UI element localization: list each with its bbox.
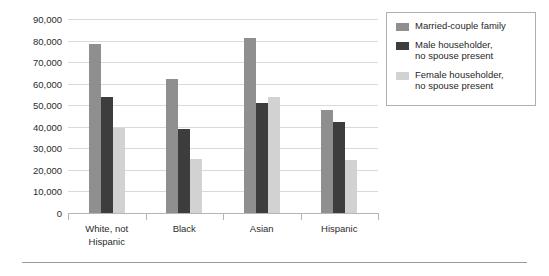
bar-group bbox=[146, 19, 224, 213]
y-axis-tick-label: 80,000 bbox=[0, 35, 62, 46]
y-axis-tick-label: 10,000 bbox=[0, 186, 62, 197]
x-axis-tick bbox=[301, 213, 302, 220]
bar bbox=[113, 128, 125, 213]
bar bbox=[178, 129, 190, 213]
legend-swatch-icon bbox=[396, 23, 409, 31]
bar bbox=[89, 44, 101, 213]
y-axis-tick-label: 70,000 bbox=[0, 57, 62, 68]
bar bbox=[345, 160, 357, 213]
y-axis-tick-label: 0 bbox=[0, 208, 62, 219]
legend-swatch-icon bbox=[396, 72, 409, 80]
footer-divider bbox=[22, 262, 527, 263]
y-axis-tick-label: 30,000 bbox=[0, 143, 62, 154]
y-axis-tick-label: 60,000 bbox=[0, 78, 62, 89]
y-axis-tick-label: 20,000 bbox=[0, 164, 62, 175]
bar bbox=[256, 103, 268, 213]
bar bbox=[333, 122, 345, 213]
bar bbox=[166, 79, 178, 213]
x-axis-tick bbox=[378, 213, 379, 220]
bar bbox=[321, 110, 333, 213]
x-axis-category-label: Hispanic bbox=[301, 223, 379, 248]
legend-label: Married-couple family bbox=[415, 20, 506, 32]
bar-group bbox=[223, 19, 301, 213]
bar-group bbox=[68, 19, 146, 213]
y-axis-tick-label: 90,000 bbox=[0, 14, 62, 25]
bar-group bbox=[301, 19, 379, 213]
legend-item: Female householder, no spouse present bbox=[396, 69, 528, 92]
y-axis-tick-label: 40,000 bbox=[0, 121, 62, 132]
x-axis-ticks bbox=[68, 213, 378, 220]
x-axis-tick bbox=[223, 213, 224, 220]
legend-label: Female householder, no spouse present bbox=[415, 69, 504, 92]
bar bbox=[268, 97, 280, 213]
bar bbox=[244, 38, 256, 213]
x-axis-category-label: Asian bbox=[223, 223, 301, 248]
legend-label: Male householder, no spouse present bbox=[415, 39, 493, 62]
x-axis-labels: White, notHispanicBlackAsianHispanic bbox=[68, 223, 378, 248]
x-axis-category-label: Black bbox=[146, 223, 224, 248]
chart-legend: Married-couple family Male householder, … bbox=[386, 12, 536, 106]
bar-groups bbox=[68, 19, 378, 213]
x-axis-tick bbox=[68, 213, 69, 220]
y-axis-labels: 010,00020,00030,00040,00050,00060,00070,… bbox=[0, 19, 62, 213]
legend-item: Male householder, no spouse present bbox=[396, 39, 528, 62]
legend-item: Married-couple family bbox=[396, 20, 528, 32]
bar bbox=[190, 159, 202, 213]
x-axis-tick bbox=[146, 213, 147, 220]
legend-swatch-icon bbox=[396, 42, 409, 50]
y-axis-tick-label: 50,000 bbox=[0, 100, 62, 111]
x-axis-category-label: White, notHispanic bbox=[68, 223, 146, 248]
bar-chart: 010,00020,00030,00040,00050,00060,00070,… bbox=[0, 0, 549, 276]
bar bbox=[101, 97, 113, 213]
